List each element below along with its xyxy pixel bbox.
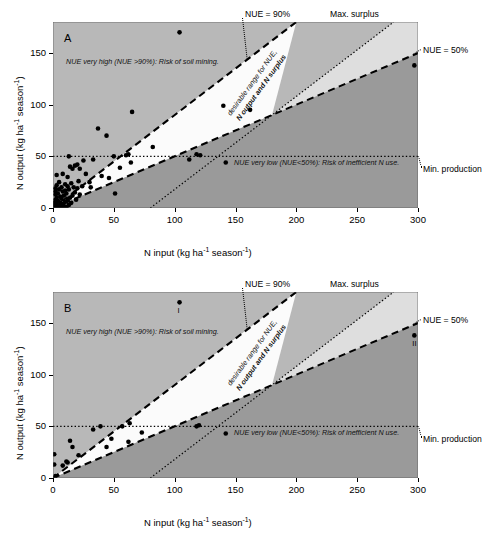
zone-note-low-a: NUE very low (NUE<50%): Risk of ineffici… xyxy=(234,158,399,167)
label-nue50-b: NUE = 50% xyxy=(423,315,468,325)
x-axis-title-b: N input (kg ha-1 season-1) xyxy=(144,517,252,528)
x-axis-title-end-b: ) xyxy=(249,517,252,528)
y-tick-0 xyxy=(49,478,53,479)
x-tick-label-200: 200 xyxy=(280,214,312,225)
x-axis-title-main-b: N input (kg ha xyxy=(144,517,203,528)
y-tick-label-150: 150 xyxy=(20,317,46,328)
x-tick-label-150: 150 xyxy=(220,214,252,225)
label-min-production-a: Min. production xyxy=(423,164,482,174)
x-tick-label-250: 250 xyxy=(341,484,373,495)
x-tick-label-50: 50 xyxy=(98,214,130,225)
panel-letter-a: A xyxy=(64,32,71,44)
y-tick-label-0: 0 xyxy=(20,472,46,483)
y-axis-title-b: N output (kg ha-1 season-1) xyxy=(14,346,25,460)
y-axis-title-end-a: ) xyxy=(14,76,25,79)
x-tick-label-250: 250 xyxy=(341,214,373,225)
x-tick-label-150: 150 xyxy=(220,484,252,495)
zone-note-high-a: NUE very high (NUE >90%): Risk of soil m… xyxy=(66,57,219,66)
x-tick-250 xyxy=(357,208,358,212)
x-tick-150 xyxy=(236,478,237,482)
x-axis-title-end-a: ) xyxy=(249,247,252,258)
y-axis-title-sup2-b: -1 xyxy=(13,350,20,356)
y-tick-label-50: 50 xyxy=(20,420,46,431)
y-axis-title-sup2-a: -1 xyxy=(13,80,20,86)
y-tick-0 xyxy=(49,208,53,209)
x-tick-200 xyxy=(296,478,297,482)
y-axis-title-sup1-a: -1 xyxy=(13,119,20,125)
zone-note-low-b: NUE very low (NUE<50%): Risk of ineffici… xyxy=(234,428,399,437)
x-tick-label-100: 100 xyxy=(159,484,191,495)
panel-b: B NUE very high (NUE >90%): Risk of soil… xyxy=(0,270,473,539)
y-tick-50 xyxy=(49,426,53,427)
y-axis-title-a: N output (kg ha-1 season-1) xyxy=(14,76,25,190)
label-nue90-a: NUE = 90% xyxy=(245,9,290,19)
y-tick-100 xyxy=(49,105,53,106)
x-axis-title-mid-b: season xyxy=(209,517,242,528)
x-axis-title-main-a: N input (kg ha xyxy=(144,247,203,258)
y-tick-50 xyxy=(49,156,53,157)
x-tick-label-300: 300 xyxy=(402,484,434,495)
y-tick-150 xyxy=(49,53,53,54)
y-tick-label-0: 0 xyxy=(20,202,46,213)
x-tick-label-200: 200 xyxy=(280,484,312,495)
x-tick-200 xyxy=(296,208,297,212)
x-tick-label-50: 50 xyxy=(98,484,130,495)
label-min-production-b: Min. production xyxy=(423,434,482,444)
label-nue50-a: NUE = 50% xyxy=(423,45,468,55)
y-tick-100 xyxy=(49,375,53,376)
x-tick-label-100: 100 xyxy=(159,214,191,225)
x-tick-0 xyxy=(53,208,54,212)
x-tick-50 xyxy=(114,208,115,212)
y-tick-label-100: 100 xyxy=(20,99,46,110)
panel-letter-b: B xyxy=(64,302,71,314)
y-tick-label-150: 150 xyxy=(20,47,46,58)
x-tick-100 xyxy=(175,208,176,212)
x-tick-0 xyxy=(53,478,54,482)
y-axis-title-end-b: ) xyxy=(14,346,25,349)
y-axis-title-sup1-b: -1 xyxy=(13,389,20,395)
x-tick-300 xyxy=(418,208,419,212)
x-tick-50 xyxy=(114,478,115,482)
y-tick-label-50: 50 xyxy=(20,150,46,161)
x-tick-150 xyxy=(236,208,237,212)
y-tick-150 xyxy=(49,323,53,324)
x-axis-title-mid-a: season xyxy=(209,247,242,258)
label-max-surplus-b: Max. surplus xyxy=(330,279,379,289)
x-tick-label-0: 0 xyxy=(37,214,69,225)
point-annotation-II: II xyxy=(412,339,416,348)
point-annotation-I: I xyxy=(178,306,180,315)
x-tick-250 xyxy=(357,478,358,482)
zone-note-high-b: NUE very high (NUE >90%): Risk of soil m… xyxy=(66,327,219,336)
label-max-surplus-a: Max. surplus xyxy=(330,9,379,19)
leader-line xyxy=(418,156,422,168)
x-tick-300 xyxy=(418,478,419,482)
y-tick-label-100: 100 xyxy=(20,369,46,380)
x-tick-100 xyxy=(175,478,176,482)
panel-a: A NUE very high (NUE >90%): Risk of soil… xyxy=(0,0,473,269)
label-nue90-b: NUE = 90% xyxy=(245,279,290,289)
x-tick-label-300: 300 xyxy=(402,214,434,225)
x-tick-label-0: 0 xyxy=(37,484,69,495)
x-axis-title-a: N input (kg ha-1 season-1) xyxy=(144,247,252,258)
leader-line xyxy=(418,426,422,438)
